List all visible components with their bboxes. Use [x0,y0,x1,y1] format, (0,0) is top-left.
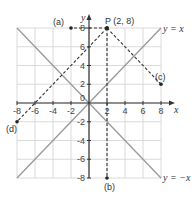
y-equals-negative-x-label: y = −x [162,172,191,183]
image-point [69,26,73,30]
y-tick-label: 6 [80,42,85,52]
y-tick-label: 8 [80,23,85,33]
y-tick-label: -8 [77,173,85,183]
x-tick-label: 4 [122,106,127,116]
y-tick-label: 2 [80,79,85,89]
origin-label: 0 [80,93,85,103]
image-point-label: (b) [104,182,115,192]
reflection-diagram: 0-8-6-4-224688642-2-4-6-8 xyP (2, 8)(a)(… [0,0,196,201]
x-tick-label: -8 [13,106,21,116]
y-tick-label: -6 [77,154,85,164]
point-p [105,26,109,30]
image-point [159,82,163,86]
image-point-label: (c) [155,72,166,82]
x-tick-label: -2 [67,106,75,116]
labels: xyP (2, 8)(a)(b)(c)(d)y = xy = −x [6,12,191,192]
image-point [105,176,109,180]
x-tick-label: 2 [104,106,109,116]
x-tick-label: 8 [158,106,163,116]
y-axis-arrow-icon [87,14,92,20]
x-tick-label: -4 [49,106,57,116]
point-p-label: P (2, 8) [105,16,134,26]
y-tick-label: -4 [77,136,85,146]
x-axis-label: x [173,104,179,115]
y-axis-label: y [80,12,86,23]
x-tick-label: 6 [140,106,145,116]
y-equals-x-label: y = x [162,23,184,34]
image-point-label: (a) [53,17,64,27]
x-tick-label: -6 [31,106,39,116]
image-point-label: (d) [6,124,17,134]
y-tick-label: -2 [77,117,85,127]
y-tick-label: 4 [80,61,85,71]
